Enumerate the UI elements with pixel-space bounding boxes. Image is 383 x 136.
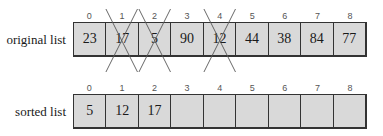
cell-value: 12: [115, 103, 129, 119]
index-label: 3: [171, 10, 204, 22]
index-label: 8: [334, 82, 367, 94]
cell-value: 77: [342, 31, 356, 47]
array-cell: 90: [171, 23, 203, 55]
cell-value: 44: [245, 31, 259, 47]
array-cell: 38: [269, 23, 301, 55]
array-cell-crossed: 12: [204, 23, 236, 55]
sorted-list-label: sorted list: [0, 104, 66, 119]
sorted-list-array: 5 12 17: [73, 94, 367, 129]
index-label: 2: [138, 10, 171, 22]
array-cell: 77: [334, 23, 365, 55]
array-cell: 5: [74, 95, 106, 127]
array-cell-empty: [269, 95, 301, 127]
array-cell-empty: [171, 95, 203, 127]
array-cell-crossed: 17: [106, 23, 138, 55]
array-cell-empty: [301, 95, 333, 127]
index-label: 1: [106, 10, 139, 22]
index-label: 1: [106, 82, 139, 94]
index-label: 0: [73, 82, 106, 94]
index-label: 8: [334, 10, 367, 22]
index-label: 6: [269, 10, 302, 22]
index-label: 5: [236, 10, 269, 22]
index-label: 4: [203, 82, 236, 94]
index-label: 7: [301, 10, 334, 22]
index-label: 3: [171, 82, 204, 94]
array-cell: 84: [301, 23, 333, 55]
original-list-label: original list: [0, 32, 66, 47]
index-label: 5: [236, 82, 269, 94]
sorted-list-indices: 0 1 2 3 4 5 6 7 8: [73, 82, 366, 94]
array-cell-empty: [236, 95, 268, 127]
cell-value: 17: [115, 31, 129, 47]
cell-value: 5: [86, 103, 93, 119]
cell-value: 38: [277, 31, 291, 47]
index-label: 4: [203, 10, 236, 22]
index-label: 6: [269, 82, 302, 94]
original-list-indices: 0 1 2 3 4 5 6 7 8: [73, 10, 366, 22]
original-list-array: 23 17 5 90 12 44 38 84 77: [73, 22, 367, 57]
index-label: 7: [301, 82, 334, 94]
cell-value: 90: [180, 31, 194, 47]
array-cell: 44: [236, 23, 268, 55]
cell-value: 17: [148, 103, 162, 119]
array-cell-empty: [334, 95, 365, 127]
index-label: 0: [73, 10, 106, 22]
cell-value: 5: [151, 31, 158, 47]
array-cell: 23: [74, 23, 106, 55]
array-cell: 17: [139, 95, 171, 127]
index-label: 2: [138, 82, 171, 94]
array-cell: 12: [106, 95, 138, 127]
cell-value: 84: [310, 31, 324, 47]
array-cell-crossed: 5: [139, 23, 171, 55]
cell-value: 12: [212, 31, 226, 47]
array-cell-empty: [204, 95, 236, 127]
cell-value: 23: [83, 31, 97, 47]
